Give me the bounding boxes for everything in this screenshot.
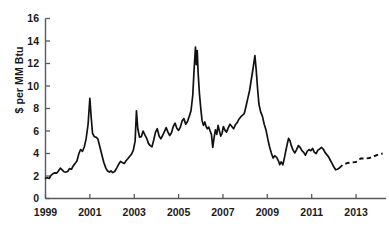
y-tick-label: 4 [33, 147, 39, 159]
series-line-historical [46, 47, 340, 178]
x-axis-ticks: 19992001200320052007200920112013 [34, 194, 368, 218]
x-tick-label: 2011 [300, 206, 323, 218]
y-tick-label: 0 [33, 192, 39, 204]
chart-plot-area: 0246810121416 19992001200320052007200920… [0, 0, 389, 236]
x-tick-label: 2005 [167, 206, 191, 218]
natural-gas-price-chart: $ per MM Btu 0246810121416 1999200120032… [0, 0, 389, 236]
y-tick-label: 12 [27, 57, 39, 69]
y-tick-label: 6 [33, 125, 39, 137]
series-line-forecast [339, 154, 382, 169]
x-tick-label: 2003 [123, 206, 147, 218]
y-axis-ticks: 0246810121416 [27, 12, 50, 204]
y-tick-label: 2 [33, 170, 39, 182]
x-tick-label: 2009 [256, 206, 280, 218]
x-tick-label: 2001 [78, 206, 102, 218]
data-series-group [46, 47, 383, 178]
y-tick-label: 14 [27, 35, 39, 47]
x-tick-label: 2007 [211, 206, 235, 218]
y-tick-label: 10 [27, 80, 39, 92]
x-tick-label: 1999 [34, 206, 58, 218]
y-tick-label: 16 [27, 12, 39, 24]
y-tick-label: 8 [33, 102, 39, 114]
x-tick-label: 2013 [344, 206, 368, 218]
